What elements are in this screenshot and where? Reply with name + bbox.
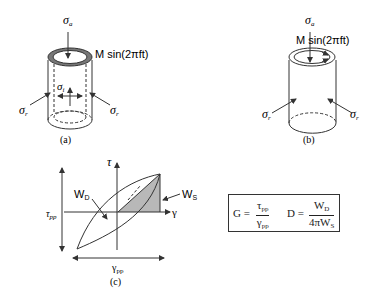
c-tau-axis-label: τ	[107, 156, 111, 168]
g-denominator: γpp	[256, 216, 269, 232]
a-caption: (a)	[60, 134, 71, 146]
b-radial-right-label: σr	[350, 108, 359, 124]
a-radial-left-label: σr	[19, 104, 28, 120]
d-fraction: WD 4πWS	[309, 199, 334, 232]
b-torque-label: M sin(2πft)	[296, 34, 349, 46]
a-inner-stress-label: σi	[57, 80, 64, 96]
a-radial-right-label: σr	[110, 104, 119, 120]
g-lhs: G =	[233, 207, 250, 219]
d-lhs: D =	[287, 207, 304, 219]
panel-a-cylinder	[30, 32, 110, 129]
panel-b-cylinder	[272, 32, 352, 133]
c-caption: (c)	[110, 276, 121, 288]
g-numerator: τpp	[256, 199, 269, 216]
panel-c-hysteresis	[62, 163, 180, 258]
formula-box: G = τpp γpp D = WD 4πWS	[228, 194, 340, 232]
g-fraction: τpp γpp	[256, 199, 269, 232]
c-gamma-pp-label: γpp	[112, 262, 123, 277]
b-radial-left-label: σr	[262, 108, 271, 124]
a-torque-label: M sin(2πft)	[95, 48, 148, 60]
d-denominator: 4πWS	[309, 216, 334, 232]
b-caption: (b)	[303, 134, 315, 146]
c-gamma-axis-label: γ	[172, 206, 177, 218]
c-tau-pp-label: τpp	[46, 208, 57, 223]
c-ws-label: WS	[182, 188, 197, 204]
b-axial-stress-label: σa	[305, 14, 314, 30]
a-axial-stress-label: σa	[63, 14, 72, 30]
d-numerator: WD	[309, 199, 334, 216]
c-wd-label: WD	[74, 188, 89, 204]
